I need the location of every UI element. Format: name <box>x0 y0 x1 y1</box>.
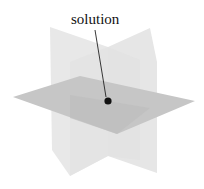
solution-label: solution <box>71 12 119 27</box>
diagram-canvas <box>0 0 204 189</box>
solution-point <box>104 97 111 104</box>
three-planes-diagram: solution <box>0 0 204 189</box>
